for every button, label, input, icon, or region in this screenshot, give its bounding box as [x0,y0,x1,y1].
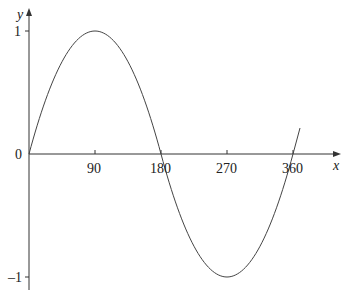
x-axis-arrow-icon [333,151,341,157]
y-tick-label-1: 1 [14,24,21,39]
x-tick-label-90: 90 [87,161,101,176]
x-tick-label-180: 180 [150,161,171,176]
sine-graph: y 1 0 –1 90 180 270 360 x [0,0,347,298]
y-tick-label-neg1: –1 [7,270,22,285]
origin-label: 0 [15,147,22,162]
x-tick-label-270: 270 [216,161,237,176]
x-tick-label-360: 360 [282,161,303,176]
y-axis-arrow-icon [26,8,32,16]
x-axis-label: x [332,158,340,173]
y-axis-label: y [15,7,24,22]
